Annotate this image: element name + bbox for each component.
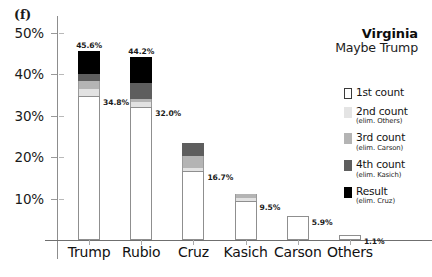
bar-segment xyxy=(78,51,100,75)
bar-segment xyxy=(235,201,257,240)
bar-segment xyxy=(235,194,257,198)
x-axis-category-label: Others xyxy=(327,244,373,260)
y-axis-tick: 20% xyxy=(51,157,57,158)
y-axis-tick-inner xyxy=(59,116,64,117)
bar-stack xyxy=(235,16,257,240)
legend-sublabel: (elim. Others) xyxy=(356,117,428,126)
legend-label: 3rd count xyxy=(356,132,428,144)
bar-segment xyxy=(130,102,152,107)
legend-swatch-icon xyxy=(344,187,352,198)
bar-segment xyxy=(130,99,152,102)
x-axis-category-label: Trump xyxy=(68,244,111,260)
panel-label: (f) xyxy=(14,7,31,22)
bar-value-label-result: 44.2% xyxy=(128,47,154,56)
bar-segment xyxy=(182,156,204,168)
x-axis-category-label: Cruz xyxy=(178,244,209,260)
legend-label: 4th count xyxy=(356,159,428,171)
bar-segment xyxy=(78,89,100,96)
bar-segment xyxy=(182,143,204,157)
bar-segment xyxy=(235,198,257,200)
y-axis-tick-inner xyxy=(59,74,64,75)
bar-segment xyxy=(130,83,152,99)
legend-item[interactable]: 1st count xyxy=(344,87,428,99)
bar-segment xyxy=(130,57,152,84)
bar-segment xyxy=(182,171,204,240)
y-axis-tick: 10% xyxy=(51,199,57,200)
legend-sublabel: (elim. Carson) xyxy=(356,144,428,153)
legend-label: 2nd count xyxy=(356,106,428,118)
chart-subtitle: Maybe Trump xyxy=(335,41,418,56)
legend-item[interactable]: Result(elim. Cruz) xyxy=(344,186,428,206)
bar-stack xyxy=(182,16,204,240)
legend-item[interactable]: 4th count(elim. Kasich) xyxy=(344,159,428,179)
bar-value-label-first-count: 9.5% xyxy=(260,203,281,212)
plot-area: 50%40%30%20%10% 34.8%45.6%32.0%44.2%16.7… xyxy=(57,16,370,240)
legend-text: 4th count(elim. Kasich) xyxy=(356,159,428,179)
legend-swatch-icon xyxy=(344,133,352,144)
bar-group[interactable]: 32.0%44.2% xyxy=(130,16,152,240)
legend-label: Result xyxy=(356,186,428,198)
y-axis-tick: 30% xyxy=(51,116,57,117)
y-axis-tick-inner xyxy=(59,157,64,158)
bar-stack xyxy=(287,16,309,240)
bar-value-label-first-count: 34.8% xyxy=(103,98,129,107)
chart-title-block: Virginia Maybe Trump xyxy=(335,26,418,56)
bar-segment xyxy=(287,216,309,240)
y-axis-line xyxy=(57,16,58,259)
chart-title: Virginia xyxy=(335,26,418,41)
bar-group[interactable]: 34.8%45.6% xyxy=(78,16,100,240)
bar-group[interactable]: 9.5% xyxy=(235,16,257,240)
y-axis-tick-label: 40% xyxy=(15,66,44,82)
y-axis-tick-label: 50% xyxy=(15,25,44,41)
bar-segment xyxy=(78,74,100,81)
x-axis-category-label: Carson xyxy=(274,244,322,260)
y-axis-tick: 50% xyxy=(51,33,57,34)
y-axis-tick: 40% xyxy=(51,74,57,75)
bar-value-label-result: 45.6% xyxy=(76,41,102,50)
bar-group[interactable]: 16.7% xyxy=(182,16,204,240)
x-axis-category-label: Rubio xyxy=(122,244,160,260)
legend-text: 2nd count(elim. Others) xyxy=(356,106,428,126)
bar-value-label-first-count: 16.7% xyxy=(207,173,233,182)
y-axis-tick-label: 30% xyxy=(15,108,44,124)
bar-segment xyxy=(78,81,100,88)
bar-value-label-first-count: 5.9% xyxy=(312,218,333,227)
x-axis-category-label: Kasich xyxy=(224,244,268,260)
legend-item[interactable]: 2nd count(elim. Others) xyxy=(344,106,428,126)
legend-sublabel: (elim. Kasich) xyxy=(356,171,428,180)
y-axis-tick-label: 20% xyxy=(15,149,44,165)
bar-segment xyxy=(78,96,100,240)
legend-text: 3rd count(elim. Carson) xyxy=(356,132,428,152)
bar-value-label-first-count: 32.0% xyxy=(155,109,181,118)
legend-item[interactable]: 3rd count(elim. Carson) xyxy=(344,132,428,152)
bar-segment xyxy=(130,107,152,240)
legend-label: 1st count xyxy=(356,87,428,99)
legend-text: Result(elim. Cruz) xyxy=(356,186,428,206)
legend-swatch-icon xyxy=(344,160,352,171)
legend-swatch-icon xyxy=(344,107,352,118)
legend-swatch-icon xyxy=(344,88,352,99)
y-axis-tick-inner xyxy=(59,33,64,34)
y-axis-tick-inner xyxy=(59,199,64,200)
bar-group[interactable]: 5.9% xyxy=(287,16,309,240)
bar-segment xyxy=(182,168,204,170)
legend-sublabel: (elim. Cruz) xyxy=(356,197,428,206)
chart-legend: 1st count2nd count(elim. Others)3rd coun… xyxy=(344,87,428,213)
legend-text: 1st count xyxy=(356,87,428,99)
y-axis-tick-label: 10% xyxy=(15,191,44,207)
